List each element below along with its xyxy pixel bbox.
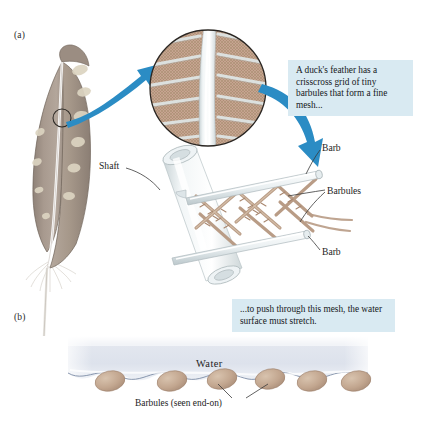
- panel-a-label: (a): [14, 30, 25, 40]
- leader-shaft: [126, 168, 160, 190]
- panel-b-label: (b): [14, 312, 26, 322]
- figure-duck-feather-mesh: (a) (b) A duck's feather has a crisscros…: [0, 0, 435, 430]
- magnified-inset: [146, 26, 272, 150]
- label-barbules: Barbules: [327, 185, 361, 196]
- leader-barb-bottom: [308, 236, 320, 250]
- shaft-barb-model: [160, 141, 352, 288]
- label-barb-bottom: Barb: [322, 246, 341, 257]
- label-shaft: Shaft: [99, 160, 119, 171]
- callout-top: A duck's feather has a crisscross grid o…: [288, 60, 413, 116]
- leader-barbules-1: [288, 190, 325, 196]
- label-barbules-end-on: Barbules (seen end-on): [135, 398, 222, 408]
- label-barb-top: Barb: [322, 142, 341, 153]
- callout-bottom: ...to push through this mesh, the water …: [232, 299, 395, 332]
- feather-illustration: [26, 45, 92, 336]
- label-water: Water: [196, 358, 223, 369]
